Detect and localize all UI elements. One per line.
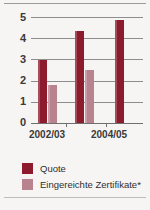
top-divider [4,3,146,4]
legend-swatch-quote [22,163,33,174]
gridline-4 [31,38,143,39]
y-axis-tick-4: 4 [8,33,26,44]
y-axis-tick-2: 2 [8,75,26,86]
bar-highlight [38,60,40,123]
x-axis-tick-1 [66,123,67,127]
chart-figure: 5 4 3 2 1 0 [0,0,150,210]
x-axis-line [31,123,143,124]
bar-quote-2003-04 [75,31,84,123]
legend-label-zertifikate: Eingereichte Zertifikate* [40,179,141,190]
gridline-3 [31,59,143,60]
bar-quote-2004-05 [115,20,124,123]
y-axis-tick-1: 1 [8,96,26,107]
x-axis-label-2002-03: 2002/03 [29,129,65,140]
y-axis-tick-5: 5 [8,12,26,23]
bar-highlight [75,31,77,123]
x-axis-label-2004-05: 2004/05 [91,129,127,140]
bar-zertifikate-2003-04 [85,70,94,123]
y-axis-tick-3: 3 [8,54,26,65]
bar-highlight [48,85,50,123]
plot-area [31,17,143,123]
legend-item-zertifikate: Eingereichte Zertifikate* [22,176,141,192]
y-axis-tick-0: 0 [8,117,26,128]
x-axis-tick-2 [106,123,107,127]
legend-label-quote: Quote [40,163,66,174]
bar-highlight [85,70,87,123]
gridline-5 [31,17,143,18]
legend-item-quote: Quote [22,160,141,176]
bar-highlight [115,20,117,123]
chart-legend: Quote Eingereichte Zertifikate* [22,160,141,192]
bottom-divider [4,197,146,198]
bar-quote-2002-03 [38,60,47,123]
legend-swatch-zertifikate [22,179,33,190]
bar-zertifikate-2002-03 [48,85,57,123]
